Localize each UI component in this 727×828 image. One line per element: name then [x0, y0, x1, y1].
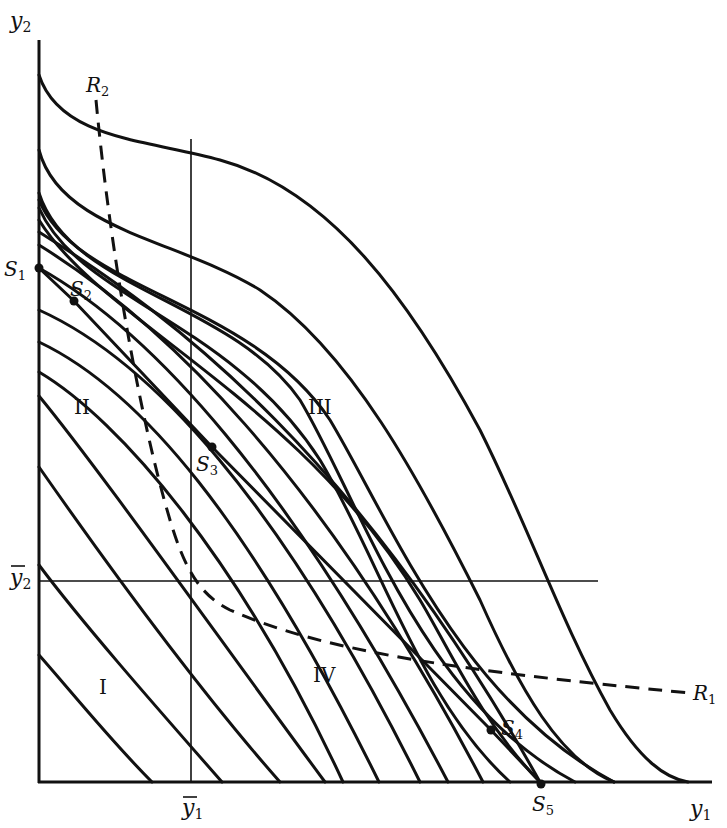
s1-label: S1 — [4, 257, 26, 283]
point-s5 — [537, 780, 546, 789]
r1-label: R1 — [692, 681, 716, 707]
contour-curve — [39, 220, 540, 782]
y1-axis-label: y1 — [689, 796, 711, 823]
y2-axis-label: y2 — [9, 8, 31, 35]
point-s4 — [487, 726, 496, 735]
s5-label: S5 — [532, 792, 554, 818]
r2-label: R2 — [85, 73, 109, 99]
s2-label: S2 — [70, 277, 92, 303]
point-s1 — [35, 264, 44, 273]
region-label-iii: III — [308, 395, 332, 419]
region-label-iv: IV — [313, 663, 336, 687]
contour-curves — [39, 75, 688, 782]
contour-curve — [39, 193, 575, 782]
s4-label: S4 — [501, 716, 523, 742]
diagram-figure: y2 y1 y1 y2 R2 R1 S1 S2 S3 S4 S5 I II II… — [0, 0, 727, 828]
point-s3 — [208, 443, 217, 452]
contour-curve — [39, 565, 222, 782]
svg-text:y1: y1 — [181, 795, 203, 822]
contour-curve — [39, 467, 280, 782]
contour-curve — [39, 396, 325, 782]
region-label-i: I — [99, 675, 107, 699]
contour-curve — [39, 655, 152, 782]
svg-text:y2: y2 — [9, 565, 31, 592]
y1-bar-label: y1 — [181, 795, 203, 822]
y2-bar-label: y2 — [9, 565, 31, 592]
region-label-ii: II — [74, 395, 90, 419]
s-path-line — [39, 268, 540, 782]
contour-curve — [39, 150, 614, 782]
